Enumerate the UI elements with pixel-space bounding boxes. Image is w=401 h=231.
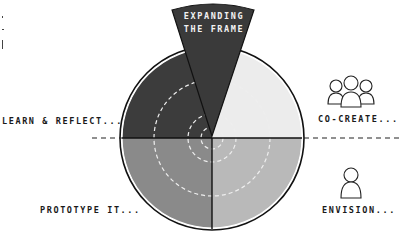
- edge-mark: [2, 40, 3, 49]
- wedge-title-line1: EXPANDING: [170, 10, 258, 23]
- edge-mark: [2, 16, 3, 18]
- edge-mark: [2, 29, 4, 30]
- label-co-create: CO-CREATE...: [318, 114, 399, 124]
- label-learn-reflect: LEARN & REFLECT...: [2, 116, 123, 126]
- label-prototype: PROTOTYPE IT...: [40, 205, 141, 215]
- quadrant-envision: [212, 138, 302, 228]
- group-of-people-icon: [328, 76, 374, 107]
- single-person-icon: [341, 168, 361, 198]
- wedge-title-line2: THE FRAME: [170, 23, 258, 36]
- label-envision: ENVISION...: [322, 205, 396, 215]
